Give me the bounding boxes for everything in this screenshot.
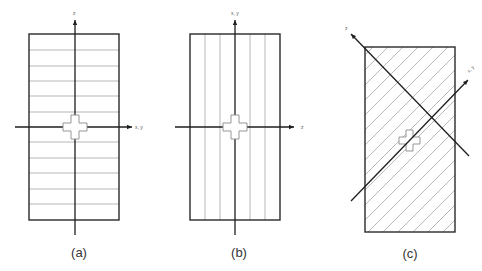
axis-label-z: z <box>301 124 304 130</box>
caption-b: (b) <box>231 245 247 260</box>
panel-a: z x, y (a) <box>15 10 143 260</box>
axis-label-z: z <box>345 25 348 31</box>
axis-label-xy: x, y <box>231 10 239 16</box>
axis-label-z: z <box>73 10 76 16</box>
diagonal-axis-xy-arrow <box>351 80 468 201</box>
axis-label-xy: x, y <box>465 64 475 74</box>
panel-c: z x, y (c) <box>345 25 476 261</box>
axis-label-xy: x, y <box>135 124 143 130</box>
panel-b: x, y z (b) <box>175 10 304 260</box>
cross-section-icon <box>63 115 87 139</box>
caption-c: (c) <box>402 246 417 261</box>
caption-a: (a) <box>71 245 87 260</box>
cross-section-icon <box>223 115 247 139</box>
figure-canvas: z x, y (a) x, y z (b) <box>0 0 482 271</box>
